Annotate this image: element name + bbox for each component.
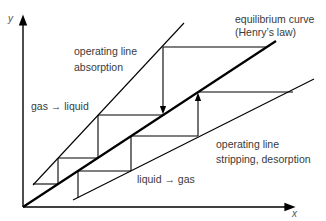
x-axis-label: x [292,207,297,221]
y-axis-label: y [8,12,13,26]
diagram: y x equilibrium curve (Henry’s law) oper… [0,0,326,221]
stripping-label-line2: stripping, desorption [216,152,311,166]
liquid-to-gas-label: liquid → gas [137,172,195,186]
equilibrium-label-line2: (Henry’s law) [235,25,296,39]
equilibrium-label-line1: equilibrium curve [235,12,314,26]
stripping-label-line1: operating line [216,137,279,151]
absorption-label-line2: absorption [74,60,123,74]
absorption-label-line1: operating line [74,44,137,58]
gas-to-liquid-label: gas → liquid [31,99,89,113]
